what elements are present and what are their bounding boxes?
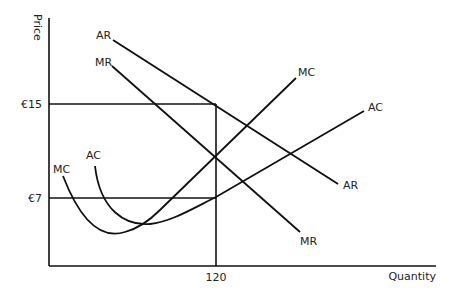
label-mc-right: MC xyxy=(298,66,315,79)
label-ac-right: AC xyxy=(368,101,383,114)
label-ar-bottom: AR xyxy=(343,179,359,192)
tick-quantity-120: 120 xyxy=(206,271,227,284)
ac-curve xyxy=(95,111,364,224)
ar-curve xyxy=(113,40,338,184)
x-axis-label: Quantity xyxy=(388,270,436,283)
label-mc-left: MC xyxy=(53,163,70,176)
label-ar-top: AR xyxy=(96,29,112,42)
mr-curve xyxy=(112,66,300,232)
label-mr-top: MR xyxy=(95,56,112,69)
tick-price-7: €7 xyxy=(28,192,42,205)
label-ac-left: AC xyxy=(86,149,101,162)
y-axis-label: Price xyxy=(31,14,44,41)
tick-price-15: €15 xyxy=(21,98,42,111)
label-mr-bottom: MR xyxy=(300,235,317,248)
economics-diagram: Price Quantity €15 €7 120 AR MR MC AC AR… xyxy=(0,0,458,298)
